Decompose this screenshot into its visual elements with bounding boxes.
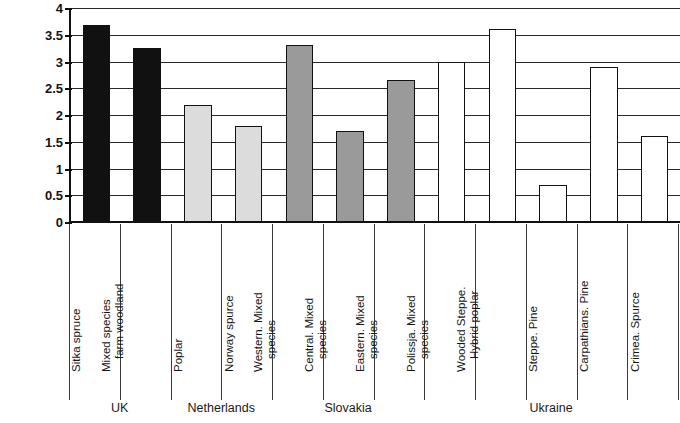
category-label-line: Eastern. Mixed (354, 230, 367, 372)
country-group-tick (221, 374, 222, 400)
country-group-tick (374, 374, 375, 400)
country-group-tick (526, 374, 527, 400)
country-group-label: UK (69, 400, 171, 416)
y-axis-tick-label: 2 (19, 110, 63, 121)
category-label: Western. Mixedspecies (252, 230, 282, 372)
category-label-line: Mixed species (100, 230, 113, 372)
category-label-line: species (265, 230, 278, 372)
plot-area (69, 8, 680, 222)
bar (590, 67, 618, 222)
category-label: Norway spurce (223, 295, 241, 372)
country-group-tick (272, 374, 273, 400)
category-label-line: farm woodland (113, 230, 126, 372)
category-label-line: Polissja. Mixed (405, 230, 418, 372)
bars-layer (71, 8, 680, 222)
country-group-label: Slovakia (272, 400, 424, 416)
country-group-tick (577, 374, 578, 400)
bar (641, 136, 669, 222)
bar (83, 25, 111, 222)
category-label: Mixed speciesfarm woodland (100, 230, 130, 372)
y-axis-tick-label: 3 (19, 56, 63, 67)
category-label: Wooded Steppe.Hybrid poplar (455, 230, 485, 372)
country-group-band: UKNetherlandsSlovakiaUkraine (69, 374, 678, 422)
category-label: Poplar (172, 339, 190, 372)
category-label-line: Steppe. Pine (527, 306, 540, 372)
y-axis-tick-label: 1 (19, 163, 63, 174)
y-axis-tick-label: 2.5 (19, 83, 63, 94)
category-labels-band: Sitka spruceMixed speciesfarm woodlandPo… (69, 224, 678, 374)
country-group-tick (69, 374, 70, 400)
category-label-line: Poplar (172, 339, 185, 372)
category-label: Central. Mixedspecies (303, 230, 333, 372)
y-axis-tick-label: 4 (19, 3, 63, 14)
category-label-line: Wooded Steppe. (455, 230, 468, 372)
y-axis-tick-label: 1.5 (19, 136, 63, 147)
bar (387, 80, 415, 222)
category-label: Eastern. Mixedspecies (354, 230, 384, 372)
country-group-tick (424, 374, 425, 400)
y-axis-tick-labels: 43.532.521.510.50 (17, 0, 63, 224)
category-label: Polissja. Mixedspecies (405, 230, 435, 372)
category-label-line: Sitka spruce (70, 309, 83, 372)
country-group-tick (678, 374, 679, 400)
bar-chart-figure: carbon sequestration rates, tCha-1 yr-1 … (0, 0, 680, 423)
bar (235, 126, 263, 222)
bar (286, 45, 314, 222)
category-label-line: Norway spurce (223, 295, 236, 372)
country-group-label: Netherlands (171, 400, 273, 416)
category-label-line: Western. Mixed (252, 230, 265, 372)
category-label-line: Central. Mixed (303, 230, 316, 372)
x-axis-line (69, 221, 680, 223)
country-group-tick (627, 374, 628, 400)
category-label-line: species (367, 230, 380, 372)
category-label-line: Crimea. Spurce (629, 292, 642, 372)
country-group-label: Ukraine (424, 400, 678, 416)
bar (336, 131, 364, 222)
category-label: Carpathians. Pine (578, 281, 596, 372)
country-group-tick (475, 374, 476, 400)
category-label: Steppe. Pine (527, 306, 545, 372)
bar (184, 105, 212, 222)
y-axis-tick-label: 0.5 (19, 190, 63, 201)
bar (438, 62, 466, 223)
category-label: Sitka spruce (70, 309, 88, 372)
bar (539, 185, 567, 222)
category-separator (678, 224, 679, 374)
bar (489, 29, 517, 222)
country-group-tick (323, 374, 324, 400)
bar (133, 48, 161, 222)
y-axis-tick-label: 3.5 (19, 29, 63, 40)
category-label-line: Hybrid poplar (468, 230, 481, 372)
category-label: Crimea. Spurce (629, 292, 647, 372)
country-group-tick (171, 374, 172, 400)
category-label-line: species (316, 230, 329, 372)
category-label-line: Carpathians. Pine (578, 281, 591, 372)
category-label-line: species (418, 230, 431, 372)
y-axis-tick-label: 0 (19, 217, 63, 228)
country-group-tick (120, 374, 121, 400)
